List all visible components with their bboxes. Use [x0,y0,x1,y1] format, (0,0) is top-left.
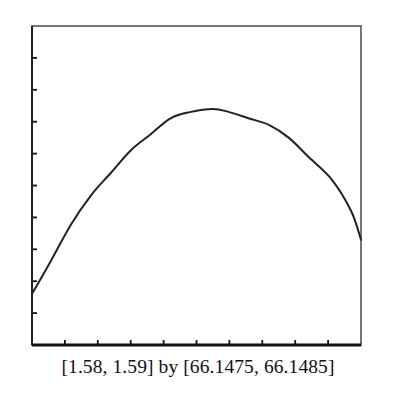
graph-plot [0,0,396,350]
plot-frame [32,26,361,345]
function-curve [32,109,361,294]
window-range-caption: [1.58, 1.59] by [66.1475, 66.1485] [0,356,396,378]
